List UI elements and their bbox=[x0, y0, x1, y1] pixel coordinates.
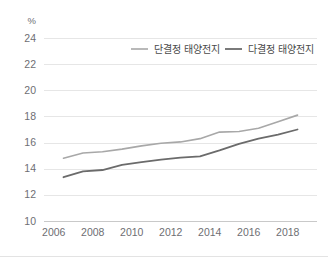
gridlines bbox=[44, 39, 317, 222]
x-tick-label-2016: 2016 bbox=[237, 226, 261, 238]
x-tick-label-2006: 2006 bbox=[42, 226, 66, 238]
y-tick-label-22: 22 bbox=[24, 58, 36, 70]
y-tick-label-20: 20 bbox=[24, 84, 36, 96]
series-lines bbox=[64, 115, 298, 177]
y-tick-label-14: 14 bbox=[24, 162, 36, 174]
y-tick-label-16: 16 bbox=[24, 136, 36, 148]
x-tick-label-2018: 2018 bbox=[276, 226, 300, 238]
x-tick-label-2012: 2012 bbox=[159, 226, 183, 238]
x-tick-label-2008: 2008 bbox=[81, 226, 105, 238]
legend-label-2: 다결정 태양전지 bbox=[248, 44, 314, 55]
chart-canvas: 1012141618202224 20062008201020122014201… bbox=[0, 0, 328, 257]
y-tick-label-10: 10 bbox=[24, 215, 36, 227]
x-axis-tick-labels: 2006200820102012201420162018 bbox=[42, 226, 300, 238]
y-tick-label-24: 24 bbox=[24, 32, 36, 44]
y-tick-label-12: 12 bbox=[24, 188, 36, 200]
legend-label-1: 단결정 태양전지 bbox=[154, 44, 220, 55]
series-line-2 bbox=[64, 130, 298, 178]
chart-legend: 단결정 태양전지다결정 태양전지 bbox=[131, 44, 314, 55]
series-line-1 bbox=[64, 115, 298, 158]
y-axis-unit-label: % bbox=[28, 15, 37, 26]
solar-cell-efficiency-line-chart: 1012141618202224 20062008201020122014201… bbox=[0, 0, 328, 257]
x-tick-label-2010: 2010 bbox=[120, 226, 144, 238]
y-tick-label-18: 18 bbox=[24, 110, 36, 122]
x-tick-label-2014: 2014 bbox=[198, 226, 222, 238]
y-axis-tick-labels: 1012141618202224 bbox=[24, 32, 36, 227]
